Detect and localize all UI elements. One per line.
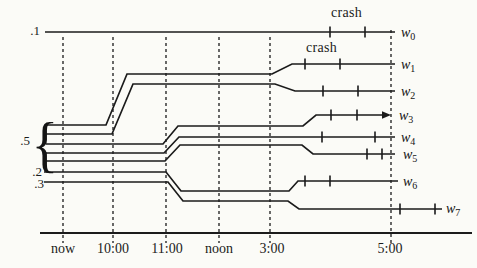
run-label-w3: w3 (399, 108, 413, 123)
run-line-w7 (44, 182, 442, 209)
time-label-11: 11:00 (145, 241, 189, 256)
runs-timeline-figure: .1 .5 { .2 .3 crash crash w0 w1 w2 w3 w4… (0, 0, 477, 268)
run-label-w3-sub: 3 (408, 114, 413, 125)
run-label-w3-base: w (399, 108, 408, 123)
run-label-w1-base: w (401, 57, 410, 72)
run-label-w1-sub: 1 (410, 63, 415, 74)
run-label-w1: w1 (401, 57, 415, 72)
time-label-3: 3:00 (250, 241, 294, 256)
run-label-w6: w6 (403, 174, 417, 189)
group-brace: { (31, 118, 58, 170)
run-label-w4: w4 (401, 130, 415, 145)
time-label-now: now (41, 241, 85, 256)
run-label-w0-base: w (401, 25, 410, 40)
arrowhead-w3 (382, 111, 391, 119)
run-label-w0: w0 (401, 25, 415, 40)
run-label-w7-sub: 7 (455, 207, 460, 218)
run-label-w5: w5 (403, 147, 417, 162)
crash-label-w1: crash (306, 41, 337, 55)
run-label-w6-sub: 6 (412, 180, 417, 191)
run-label-w4-base: w (401, 130, 410, 145)
run-label-w7-base: w (446, 201, 455, 216)
time-label-noon: noon (197, 241, 241, 256)
crash-label-w0: crash (331, 6, 362, 20)
run-label-w4-sub: 4 (410, 136, 415, 147)
run-label-w0-sub: 0 (410, 31, 415, 42)
run-label-w6-base: w (403, 174, 412, 189)
probability-label-group: .5 (8, 134, 30, 148)
time-label-5: 5:00 (368, 241, 412, 256)
run-label-w2: w2 (401, 84, 415, 99)
probability-label-w0: .1 (18, 24, 40, 38)
run-label-w5-base: w (403, 147, 412, 162)
run-label-w7: w7 (446, 201, 460, 216)
run-label-w2-sub: 2 (410, 90, 415, 101)
time-label-10: 10:00 (91, 241, 135, 256)
run-label-w5-sub: 5 (412, 153, 417, 164)
probability-label-w7: .3 (22, 177, 44, 191)
run-line-w3 (46, 115, 383, 144)
run-label-w2-base: w (401, 84, 410, 99)
run-lines (44, 32, 442, 209)
